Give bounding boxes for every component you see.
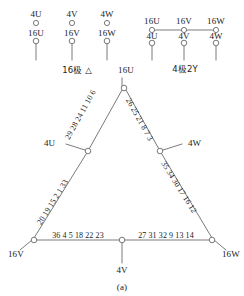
label-tr-group-caption: 4极2Y	[172, 65, 197, 74]
label-apex-16u: 16U	[118, 66, 134, 75]
label-tr-4w: 4W	[209, 32, 222, 41]
label-mid-left-4u: 4U	[44, 139, 55, 148]
label-tr-16w: 16W	[207, 17, 225, 26]
node-apex-16u	[121, 85, 127, 91]
label-mid-right-4w: 4W	[188, 139, 201, 148]
node-mid-left-4u	[85, 148, 91, 154]
figure-canvas: 4U 4V 4W 16U 16V 16W 16极 △ 16U 16V 16W 4…	[0, 0, 244, 296]
label-tl-16u: 16U	[28, 29, 44, 38]
label-tr-16v: 16V	[176, 17, 192, 26]
label-tr-16u: 16U	[144, 17, 160, 26]
terminal-tr-4u	[149, 40, 155, 46]
terminal-tl-16w	[104, 38, 110, 44]
mid-left-tap	[66, 144, 88, 151]
terminal-tl-4v	[69, 20, 74, 25]
terminal-tl-4u	[33, 20, 38, 25]
label-tl-4u: 4U	[30, 10, 41, 19]
node-bottom-right-16w	[209, 237, 215, 243]
coils-base-right: 27 31 32 9 13 14	[138, 232, 194, 240]
mid-right-tap	[160, 144, 182, 151]
node-mid-right-4w	[157, 148, 163, 154]
node-bottom-center-4v	[119, 237, 125, 243]
label-tr-4v: 4V	[178, 32, 189, 41]
figure-caption: (a)	[117, 283, 127, 292]
label-tl-16w: 16W	[98, 29, 116, 38]
label-bottom-left-16v: 16V	[8, 250, 24, 259]
terminal-tl-16u	[33, 38, 39, 44]
terminal-tl-4w	[104, 20, 109, 25]
winding-diagram-lines	[0, 0, 244, 296]
terminal-tr-4w	[213, 40, 219, 46]
label-tl-16v: 16V	[64, 29, 80, 38]
label-bottom-right-16w: 16W	[222, 250, 240, 259]
label-tl-group-caption: 16极 △	[62, 66, 92, 75]
label-tl-4w: 4W	[100, 10, 113, 19]
terminal-tl-16v	[69, 38, 75, 44]
label-tr-4u: 4U	[146, 32, 157, 41]
coils-base-left: 36 4 5 18 22 23	[52, 232, 104, 240]
terminal-tr-4v	[181, 40, 187, 46]
label-bottom-center-4v: 4V	[116, 266, 127, 275]
node-bottom-left-16v	[31, 237, 37, 243]
label-tl-4v: 4V	[66, 10, 77, 19]
